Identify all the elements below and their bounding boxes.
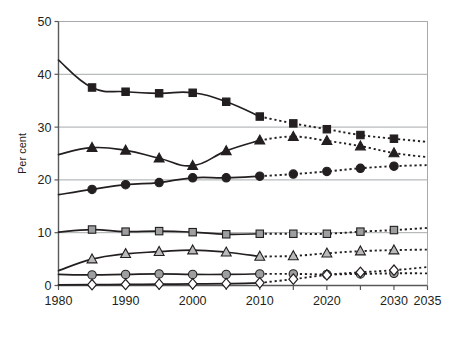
x-axis-ticks: 1980199020002010202020302035	[45, 286, 442, 308]
marker-triangle	[322, 136, 332, 145]
marker-square	[357, 131, 364, 138]
marker-square	[155, 227, 162, 234]
axes	[59, 22, 428, 286]
marker-circle	[88, 271, 96, 279]
line-projection	[260, 137, 428, 158]
marker-circle	[289, 170, 297, 178]
series-nuclear	[59, 245, 428, 271]
x-tick-label-2000: 2000	[179, 294, 207, 308]
marker-circle	[188, 174, 196, 182]
series-hydro	[59, 269, 428, 279]
marker-diamond	[222, 278, 231, 288]
y-tick-label-0: 0	[45, 279, 52, 293]
marker-circle	[222, 270, 230, 278]
line-chart: 010203040501980199020002010202020302035P…	[0, 0, 456, 363]
series-oil	[59, 60, 428, 142]
marker-square	[223, 231, 230, 238]
y-tick-label-30: 30	[38, 121, 52, 135]
x-tick-label-2035: 2035	[414, 294, 442, 308]
marker-triangle	[389, 148, 399, 157]
marker-square	[390, 226, 397, 233]
series-coal	[59, 131, 428, 169]
y-axis-title: Per cent	[16, 133, 28, 174]
marker-square	[323, 126, 330, 133]
marker-square	[290, 120, 297, 127]
line-projection	[260, 117, 428, 142]
marker-circle	[121, 270, 129, 278]
marker-square	[256, 230, 263, 237]
marker-circle	[155, 178, 163, 186]
x-tick-label-2030: 2030	[380, 294, 408, 308]
marker-square	[88, 84, 95, 91]
marker-square	[390, 135, 397, 142]
marker-circle	[188, 270, 196, 278]
y-tick-label-40: 40	[38, 68, 52, 82]
marker-square	[189, 228, 196, 235]
marker-circle	[323, 167, 331, 175]
marker-square	[122, 228, 129, 235]
line-projection	[260, 165, 428, 176]
chart-container: 010203040501980199020002010202020302035P…	[0, 0, 456, 363]
marker-diamond	[155, 279, 164, 289]
marker-square	[256, 113, 263, 120]
series-gas	[59, 162, 428, 195]
line-projection	[260, 273, 428, 274]
y-tick-label-20: 20	[38, 173, 52, 187]
marker-square	[189, 89, 196, 96]
marker-square	[223, 98, 230, 105]
marker-circle	[121, 180, 129, 188]
line-projection	[260, 267, 428, 283]
marker-circle	[155, 270, 163, 278]
x-tick-label-1980: 1980	[45, 294, 73, 308]
x-tick-label-1990: 1990	[112, 294, 140, 308]
marker-diamond	[121, 279, 130, 289]
marker-square	[88, 226, 95, 233]
marker-square	[323, 230, 330, 237]
marker-diamond	[255, 278, 264, 288]
y-tick-label-50: 50	[38, 15, 52, 29]
series-biomass-and-waste	[59, 226, 428, 238]
marker-triangle	[355, 141, 365, 150]
marker-square	[290, 230, 297, 237]
marker-diamond	[88, 280, 97, 290]
marker-circle	[390, 162, 398, 170]
x-tick-label-2020: 2020	[313, 294, 341, 308]
marker-diamond	[188, 279, 197, 289]
marker-circle	[356, 164, 364, 172]
marker-square	[155, 90, 162, 97]
marker-square	[357, 228, 364, 235]
marker-triangle	[255, 135, 265, 144]
marker-circle	[256, 172, 264, 180]
series-group	[59, 60, 428, 290]
marker-square	[122, 88, 129, 95]
marker-circle	[88, 185, 96, 193]
x-tick-label-2010: 2010	[246, 294, 274, 308]
y-axis-ticks: 01020304050	[38, 15, 59, 293]
gridlines	[59, 22, 428, 233]
line-projection	[260, 250, 428, 257]
marker-triangle	[355, 246, 365, 255]
y-tick-label-10: 10	[38, 226, 52, 240]
marker-circle	[222, 174, 230, 182]
